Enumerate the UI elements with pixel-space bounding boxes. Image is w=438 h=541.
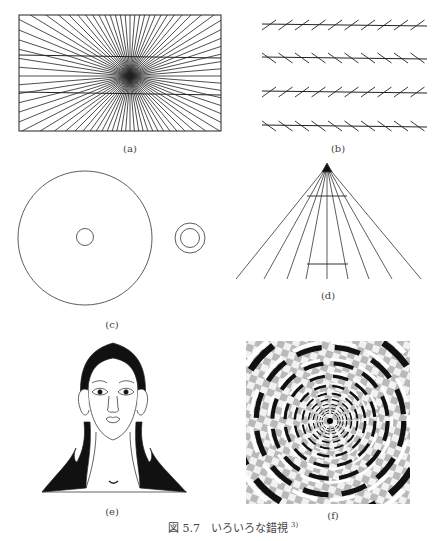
panel-d-ponzo-illusion [236,163,421,279]
figure-caption: 図 5.7 いろいろな錯視 3) [168,519,298,535]
panel-f-fraser-spiral [229,320,431,522]
figure-title: いろいろな錯視 [211,522,288,535]
figure-number: 図 5.7 [168,522,200,535]
figure-reference: 3) [291,521,298,529]
panel-label-a: (a) [123,143,137,154]
ring-inner-circle [181,229,200,248]
panel-label-c: (c) [105,319,118,330]
inner-small-circle [77,229,94,246]
panel-label-b: (b) [331,143,345,154]
panel-label-f: (f) [327,510,339,521]
figure-canvas [0,0,438,541]
panel-label-d: (d) [321,290,335,301]
ring-outer-circle [175,223,205,253]
large-circle [18,171,152,305]
panel-label-e: (e) [105,506,119,517]
panel-e-face-illusion [42,343,187,492]
panel-b-zollner-illusion [262,20,427,131]
panel-c-delboeuf-illusion [18,171,205,305]
